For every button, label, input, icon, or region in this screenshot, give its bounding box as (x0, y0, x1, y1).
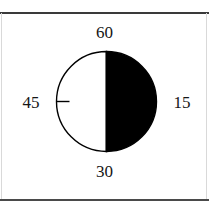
dial-label-top: 60 (0, 24, 209, 41)
dial-label-left: 45 (14, 94, 48, 111)
bottom-rule (0, 199, 209, 201)
clock-dial (55, 50, 158, 153)
top-rule (0, 12, 209, 14)
figure-frame: 60 15 30 45 (0, 0, 209, 208)
dial-shaded-half (107, 52, 157, 152)
dial-label-bottom: 30 (0, 163, 209, 180)
dial-label-right: 15 (165, 94, 199, 111)
dial-graphic (55, 50, 158, 153)
